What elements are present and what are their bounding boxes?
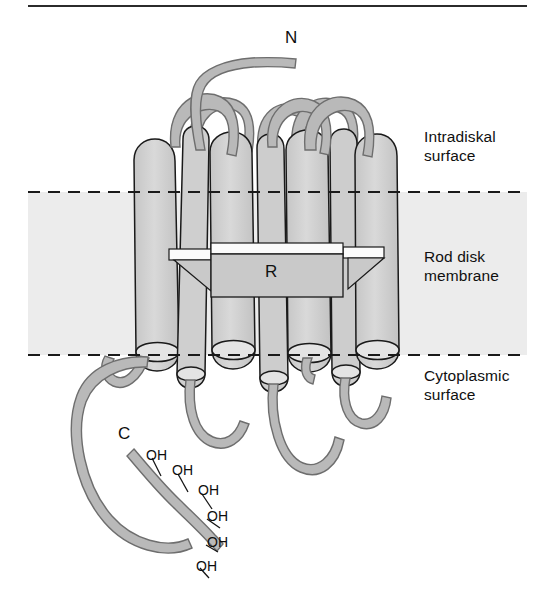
retinal-strip-center bbox=[211, 243, 343, 254]
helix-3-cap bbox=[212, 341, 255, 360]
helix-2-cap bbox=[177, 367, 205, 381]
retinal-strip-right bbox=[343, 247, 384, 258]
diagram-canvas bbox=[0, 0, 555, 601]
helix-4-cap bbox=[260, 371, 288, 385]
helix-6-cap bbox=[332, 365, 360, 379]
helix-7-cap bbox=[356, 341, 399, 360]
cyto-loop-4 bbox=[340, 378, 391, 429]
hydroxyl-label-3: OH bbox=[198, 482, 219, 498]
hydroxyl-label-2: OH bbox=[172, 462, 193, 478]
cyto-loop-3 bbox=[268, 384, 344, 475]
rhodopsin-topology-diagram: N C Intradiskal surface Rod disk membran… bbox=[0, 0, 555, 601]
n-terminus-label: N bbox=[285, 28, 297, 48]
rod-disk-membrane-label: Rod disk membrane bbox=[424, 248, 499, 286]
c-terminus-label: C bbox=[118, 424, 130, 444]
intradiskal-surface-label: Intradiskal surface bbox=[424, 128, 496, 166]
hydroxyl-label-6: OH bbox=[196, 558, 217, 574]
hydroxyl-label-5: OH bbox=[207, 534, 228, 550]
hydroxyl-label-1: OH bbox=[146, 447, 167, 463]
cytoplasmic-surface-label: Cytoplasmic surface bbox=[424, 367, 510, 405]
hydroxyl-label-4: OH bbox=[207, 508, 228, 524]
retinal-strip-left bbox=[169, 249, 211, 260]
cyto-loop-2 bbox=[185, 380, 249, 448]
retinal-label: R bbox=[265, 262, 277, 282]
